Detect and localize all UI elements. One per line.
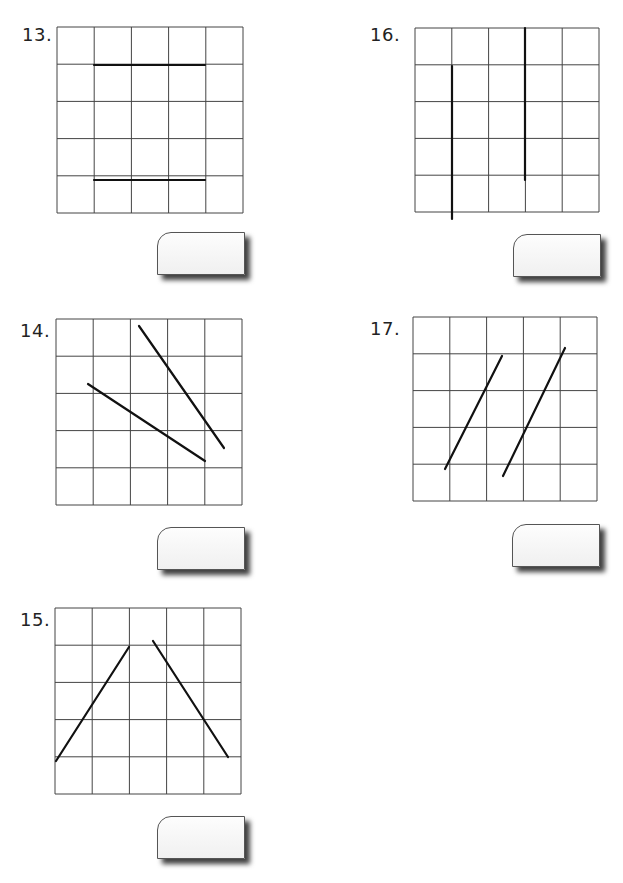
line-segment: [503, 348, 565, 476]
line-segment: [445, 356, 502, 469]
grid-with-segments: [0, 0, 623, 883]
answer-box[interactable]: [512, 524, 600, 567]
